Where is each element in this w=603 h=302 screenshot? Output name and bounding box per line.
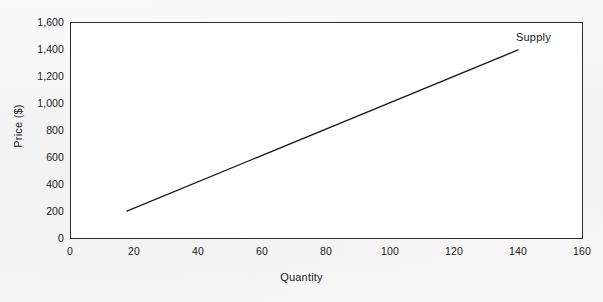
y-axis-tick-label: 0	[4, 233, 64, 244]
x-axis-tick-label: 20	[104, 246, 164, 257]
x-axis-tick-label: 80	[296, 246, 356, 257]
y-axis-tick-label: 400	[4, 179, 64, 190]
y-axis-title: Price ($)	[12, 91, 24, 161]
chart-figure: 1,600 1,400 1,200 1,000 800 600 400 200 …	[0, 0, 603, 302]
series-supply-line	[71, 23, 582, 238]
x-axis-tick-label: 40	[168, 246, 228, 257]
x-axis-title: Quantity	[0, 271, 603, 283]
x-axis-tick-label: 60	[232, 246, 292, 257]
x-axis-tick-label: 160	[552, 246, 603, 257]
x-axis-tick-labels: 0 20 40 60 80 100 120 140 160	[0, 246, 603, 260]
x-axis-tick-label: 100	[360, 246, 420, 257]
x-axis-tick-label: 0	[40, 246, 100, 257]
y-axis-title-wrapper: Price ($)	[4, 96, 32, 156]
y-axis-tick-label: 1,200	[4, 71, 64, 82]
plot-area	[70, 22, 583, 239]
x-axis-tick-label: 140	[488, 246, 548, 257]
y-axis-tick-label: 1,400	[4, 44, 64, 55]
x-axis-tick-label: 120	[424, 246, 484, 257]
y-axis-tick-label: 1,600	[4, 17, 64, 28]
supply-line-path	[127, 50, 518, 211]
y-axis-tick-label: 200	[4, 206, 64, 217]
supply-annotation-label: Supply	[516, 31, 551, 43]
